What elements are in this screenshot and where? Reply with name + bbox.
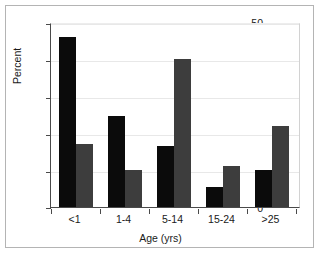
- bar-series2-cat2: [174, 59, 191, 207]
- y-tick-mark: [46, 24, 51, 25]
- x-tick-label-cat1: 1-4: [99, 214, 148, 225]
- y-tick-mark: [46, 172, 51, 173]
- bar-series1-cat3: [206, 187, 223, 207]
- bar-series2-cat3: [223, 166, 240, 207]
- bar-series1-cat1: [108, 116, 125, 207]
- bar-series1-cat2: [157, 146, 174, 207]
- y-tick-mark: [46, 61, 51, 62]
- bar-series2-cat4: [272, 126, 289, 207]
- x-tick-label-cat0: <1: [50, 214, 99, 225]
- y-axis-title: Percent: [11, 48, 23, 84]
- bar-series1-cat0: [59, 37, 76, 207]
- chart-screenshot: Percent 50 40 30 20 10 0: [0, 0, 321, 255]
- x-tick-mark: [296, 209, 297, 214]
- x-tick-label-cat2: 5-14: [148, 214, 197, 225]
- y-tick-mark: [46, 98, 51, 99]
- bar-chart: Percent 50 40 30 20 10 0: [0, 0, 321, 255]
- plot-area: [50, 23, 300, 208]
- bar-series2-cat1: [125, 170, 142, 207]
- gridline: [51, 24, 299, 25]
- bar-series1-cat4: [255, 170, 272, 207]
- bar-series2-cat0: [76, 144, 93, 207]
- y-tick-mark: [46, 135, 51, 136]
- x-tick-label-cat4: >25: [246, 214, 295, 225]
- x-axis-title: Age (yrs): [0, 232, 321, 244]
- x-tick-label-cat3: 15-24: [197, 214, 246, 225]
